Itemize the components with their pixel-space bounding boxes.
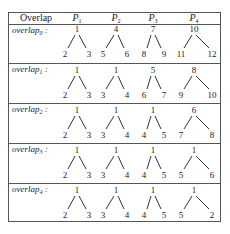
tree-root: 1 bbox=[114, 185, 119, 195]
header-overlap: Overlap bbox=[9, 12, 63, 24]
tree-edge-right bbox=[196, 156, 209, 169]
tree-edge-left bbox=[184, 116, 192, 129]
tree-left-child: 9 bbox=[179, 90, 184, 100]
tree-edge-right bbox=[196, 116, 209, 129]
tree-4: 156 bbox=[179, 145, 215, 180]
tree-right-child: 3 bbox=[87, 170, 92, 180]
tree-edge-left bbox=[147, 76, 151, 89]
table-row-overlap3: overlap3 : 123134145156 bbox=[9, 143, 220, 183]
tree-left-child: 2 bbox=[63, 210, 68, 220]
tree-root: 8 bbox=[192, 65, 197, 75]
tree-1: 123 bbox=[63, 105, 92, 140]
tree-right-child: 8 bbox=[210, 130, 215, 140]
tree-edge-left bbox=[147, 116, 151, 129]
tree-right-child: 12 bbox=[208, 49, 217, 59]
tree-root: 6 bbox=[192, 105, 197, 115]
tree-root: 4 bbox=[114, 25, 119, 34]
tree-left-child: 3 bbox=[101, 210, 106, 220]
tree-3: 145 bbox=[142, 105, 167, 140]
tree-right-child: 4 bbox=[125, 210, 130, 220]
tree-edge-right bbox=[118, 196, 124, 209]
tree-root: 1 bbox=[192, 185, 197, 195]
tree-root: 1 bbox=[151, 105, 156, 115]
tree-edge-right bbox=[79, 196, 86, 209]
tree-1: 123 bbox=[63, 65, 92, 100]
tree-diagrams: 123134145152 bbox=[9, 184, 222, 224]
table-row-overlap2: overlap2 : 123134145678 bbox=[9, 103, 220, 143]
tree-right-child: 6 bbox=[210, 170, 215, 180]
tree-edge-right bbox=[196, 196, 209, 209]
tree-right-child: 4 bbox=[125, 90, 130, 100]
tree-diagrams: 123456789101112 bbox=[9, 25, 222, 65]
tree-edge-left bbox=[147, 35, 151, 48]
tree-right-child: 9 bbox=[162, 49, 167, 59]
tree-right-child: 4 bbox=[125, 130, 130, 140]
tree-edge-right bbox=[118, 116, 124, 129]
tree-4: 678 bbox=[179, 105, 215, 140]
tree-edge-left bbox=[106, 76, 114, 89]
tree-left-child: 7 bbox=[179, 130, 184, 140]
tree-right-child: 3 bbox=[87, 130, 92, 140]
tree-root: 1 bbox=[75, 185, 80, 195]
tree-diagrams: 123134145678 bbox=[9, 104, 222, 144]
tree-2: 134 bbox=[101, 65, 130, 100]
tree-edge-right bbox=[155, 76, 161, 89]
tree-3: 567 bbox=[142, 65, 167, 100]
tree-3: 789 bbox=[142, 25, 167, 59]
tree-right-child: 10 bbox=[208, 90, 218, 100]
tree-4: 101112 bbox=[177, 25, 217, 59]
tree-left-child: 11 bbox=[177, 49, 186, 59]
table-header: Overlap P1 P2 P3 P4 bbox=[9, 13, 220, 25]
tree-left-child: 8 bbox=[142, 49, 147, 59]
tree-edge-right bbox=[118, 35, 124, 48]
tree-right-child: 5 bbox=[162, 170, 167, 180]
tree-edge-left bbox=[68, 196, 75, 209]
tree-edge-left bbox=[68, 35, 75, 48]
tree-right-child: 3 bbox=[87, 90, 92, 100]
tree-2: 134 bbox=[101, 105, 130, 140]
tree-2: 134 bbox=[101, 145, 130, 180]
tree-edge-right bbox=[196, 76, 209, 89]
tree-2: 456 bbox=[101, 25, 130, 59]
tree-right-child: 4 bbox=[125, 170, 130, 180]
tree-edge-right bbox=[155, 116, 161, 129]
tree-root: 1 bbox=[75, 65, 80, 75]
tree-edge-right bbox=[79, 76, 86, 89]
tree-edge-right bbox=[155, 156, 161, 169]
tree-left-child: 2 bbox=[63, 90, 68, 100]
tree-edge-right bbox=[155, 196, 161, 209]
tree-left-child: 3 bbox=[101, 90, 106, 100]
tree-3: 145 bbox=[142, 145, 167, 180]
tree-left-child: 2 bbox=[63, 130, 68, 140]
tree-right-child: 2 bbox=[210, 210, 215, 220]
tree-edge-left bbox=[106, 35, 114, 48]
tree-left-child: 5 bbox=[101, 49, 106, 59]
tree-edge-right bbox=[118, 156, 124, 169]
tree-edge-left bbox=[147, 196, 151, 209]
tree-edge-right bbox=[79, 116, 86, 129]
tree-left-child: 3 bbox=[101, 130, 106, 140]
tree-root: 1 bbox=[114, 105, 119, 115]
tree-left-child: 5 bbox=[179, 210, 184, 220]
tree-edge-right bbox=[155, 35, 161, 48]
tree-edge-left bbox=[184, 196, 192, 209]
tree-edge-left bbox=[68, 76, 75, 89]
tree-root: 5 bbox=[151, 65, 156, 75]
table-row-overlap0: overlap0 : 123456789101112 bbox=[9, 25, 220, 63]
tree-right-child: 6 bbox=[125, 49, 130, 59]
tree-root: 1 bbox=[151, 145, 156, 155]
tree-edge-left bbox=[68, 116, 75, 129]
tree-diagrams: 1231345678910 bbox=[9, 64, 222, 104]
tree-left-child: 4 bbox=[142, 130, 147, 140]
tree-4: 152 bbox=[179, 185, 215, 220]
tree-edge-left bbox=[106, 156, 114, 169]
tree-root: 7 bbox=[151, 25, 156, 34]
tree-edge-right bbox=[79, 35, 86, 48]
tree-left-child: 2 bbox=[63, 170, 68, 180]
tree-2: 134 bbox=[101, 185, 130, 220]
table-row-overlap1: overlap1 : 1231345678910 bbox=[9, 63, 220, 103]
tree-edge-left bbox=[68, 156, 75, 169]
tree-edge-left bbox=[184, 76, 192, 89]
tree-edge-right bbox=[196, 35, 209, 48]
overlap-table: Overlap P1 P2 P3 P4 overlap0 : 123456789… bbox=[8, 12, 221, 222]
